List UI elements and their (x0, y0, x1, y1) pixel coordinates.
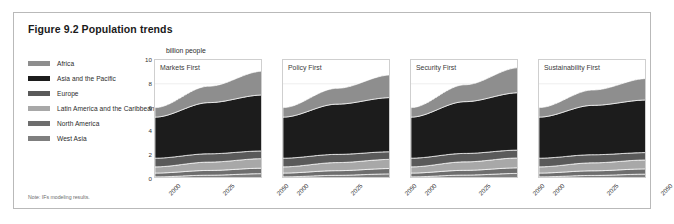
x-axis-tick-label: 2025 (605, 182, 620, 197)
y-axis-tick-label: 10 (145, 56, 152, 63)
chart-panel: Security First200020252050 (410, 59, 518, 204)
x-axis-tick-label: 2000 (423, 182, 438, 197)
legend-item-label: Europe (57, 90, 79, 97)
legend-swatch-icon (28, 76, 50, 81)
x-axis-tick-label: 2025 (221, 182, 236, 197)
y-axis-tick-label: 8 (149, 79, 152, 86)
y-axis-units-label: billion people (166, 47, 206, 54)
x-axis-tick-label: 2000 (295, 182, 310, 197)
x-axis-tick-label: 2000 (167, 182, 182, 197)
x-axis-tick-label: 2050 (659, 182, 674, 197)
chart-panel: Markets First1086420200020252050 (154, 59, 262, 204)
legend-item-label: Africa (57, 60, 74, 67)
stacked-area-svg (411, 60, 518, 178)
legend-swatch-icon (28, 61, 50, 66)
figure-note: Note: IFs modeling results. (28, 194, 90, 200)
y-axis-tick-label: 6 (149, 103, 152, 110)
y-axis-tick-label: 2 (149, 151, 152, 158)
y-axis-tick-label: 0 (149, 175, 152, 182)
x-axis: 200020252050 (538, 178, 646, 204)
x-axis-tick-label: 2000 (551, 182, 566, 197)
x-axis-tick-label: 2025 (349, 182, 364, 197)
panel-plot-area: Markets First (154, 59, 262, 178)
x-axis: 200020252050 (154, 178, 262, 204)
legend-item-label: North America (57, 120, 99, 127)
x-axis: 200020252050 (410, 178, 518, 204)
chart-panels: Markets First1086420200020252050Policy F… (154, 59, 646, 204)
y-axis-tick-label: 4 (149, 127, 152, 134)
legend-swatch-icon (28, 136, 50, 141)
legend-swatch-icon (28, 91, 50, 96)
legend-swatch-icon (28, 106, 50, 111)
x-axis-tick-label: 2025 (477, 182, 492, 197)
stacked-area-svg (155, 60, 262, 178)
legend-swatch-icon (28, 121, 50, 126)
figure-container: Figure 9.2 Population trends AfricaAsia … (13, 12, 651, 209)
y-axis: 1086420 (140, 59, 152, 178)
panel-plot-area: Sustainability First (538, 59, 646, 178)
legend-item-label: Asia and the Pacific (57, 75, 116, 82)
chart-panel: Policy First200020252050 (282, 59, 390, 204)
legend-item-label: West Asia (57, 135, 87, 142)
chart-panel: Sustainability First200020252050 (538, 59, 646, 204)
panel-plot-area: Security First (410, 59, 518, 178)
panel-plot-area: Policy First (282, 59, 390, 178)
x-axis: 200020252050 (282, 178, 390, 204)
stacked-area-svg (283, 60, 390, 178)
stacked-area-svg (539, 60, 646, 178)
figure-title: Figure 9.2 Population trends (28, 23, 173, 35)
